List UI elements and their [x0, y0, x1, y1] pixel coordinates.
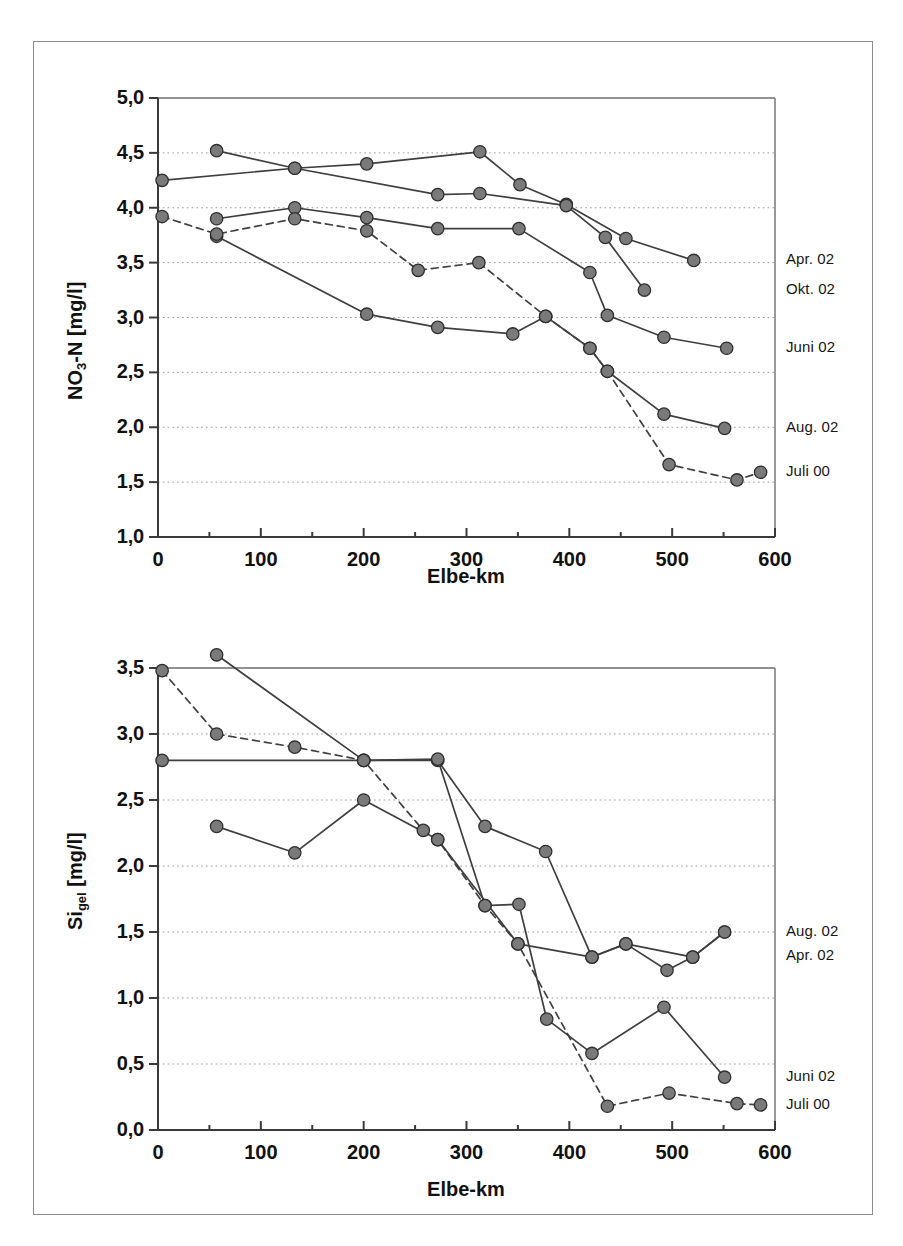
series-line-juni-02 [217, 800, 725, 957]
series-line-aug-02 [217, 655, 725, 970]
series-line-juli-00 [162, 217, 760, 480]
series-label-okt-02: Okt. 02 [786, 280, 835, 297]
data-point-marker [432, 753, 444, 765]
data-point-marker [560, 199, 572, 211]
y-tick-label: 1,0 [88, 525, 144, 548]
y-tick-label: 2,0 [88, 854, 144, 877]
data-point-marker [432, 188, 444, 200]
data-point-marker [361, 225, 373, 237]
series-line-juni-02 [217, 208, 727, 348]
y-tick-label: 0,0 [88, 1118, 144, 1141]
y-tick-label: 4,5 [88, 141, 144, 164]
y-tick-label: 2,0 [88, 415, 144, 438]
y-tick-label: 2,5 [88, 788, 144, 811]
series-line-juli-00 [162, 671, 760, 1107]
series-label-juni-02: Juni 02 [786, 1067, 835, 1084]
data-point-marker [638, 284, 650, 296]
data-point-marker [514, 179, 526, 191]
data-point-marker [601, 1100, 613, 1112]
x-tick-label: 300 [427, 1141, 507, 1164]
y-tick-label: 1,5 [88, 470, 144, 493]
data-point-marker [663, 458, 675, 470]
data-point-marker [507, 328, 519, 340]
y-tick-label: 3,0 [88, 306, 144, 329]
series-label-aug-02: Aug. 02 [786, 418, 838, 435]
data-point-marker [210, 649, 222, 661]
data-point-marker [289, 741, 301, 753]
data-point-marker [584, 342, 596, 354]
data-point-marker [474, 146, 486, 158]
data-point-marker [539, 845, 551, 857]
y-tick-label: 5,0 [88, 86, 144, 109]
data-point-marker [210, 820, 222, 832]
data-point-marker [541, 1013, 553, 1025]
x-tick-label: 100 [221, 1141, 301, 1164]
y-tick-label: 1,5 [88, 920, 144, 943]
data-point-marker [688, 254, 700, 266]
x-tick-label: 500 [632, 548, 712, 571]
series-label-juli-00: Juli 00 [786, 1095, 830, 1112]
series-label-juni-02: Juni 02 [786, 338, 835, 355]
data-point-marker [718, 422, 730, 434]
data-point-marker [289, 847, 301, 859]
x-tick-label: 0 [118, 548, 198, 571]
data-point-marker [599, 231, 611, 243]
data-point-marker [210, 228, 222, 240]
data-point-marker [601, 309, 613, 321]
y-tick-label: 0,5 [88, 1052, 144, 1075]
data-point-marker [210, 728, 222, 740]
x-tick-label: 100 [221, 548, 301, 571]
data-point-marker [620, 938, 632, 950]
data-point-marker [474, 187, 486, 199]
y-tick-label: 4,0 [88, 196, 144, 219]
x-tick-label: 600 [735, 1141, 815, 1164]
data-point-marker [432, 321, 444, 333]
series-label-juli-00: Juli 00 [786, 462, 830, 479]
figure-page: NO3-N [mg/l] Elbe-km 1,01,52,02,53,03,54… [0, 0, 903, 1246]
data-point-marker [731, 1097, 743, 1109]
y-tick-label: 3,0 [88, 722, 144, 745]
data-point-marker [479, 820, 491, 832]
y-tick-label: 3,5 [88, 656, 144, 679]
data-point-marker [658, 408, 670, 420]
data-point-marker [754, 1099, 766, 1111]
data-point-marker [479, 899, 491, 911]
x-tick-label: 600 [735, 548, 815, 571]
data-point-marker [361, 158, 373, 170]
x-tick-label: 500 [632, 1141, 712, 1164]
data-point-marker [210, 213, 222, 225]
data-point-marker [720, 342, 732, 354]
data-point-marker [512, 938, 524, 950]
data-point-marker [584, 266, 596, 278]
data-point-marker [156, 664, 168, 676]
data-point-marker [357, 794, 369, 806]
data-point-marker [601, 365, 613, 377]
series-line-apr-02 [162, 152, 694, 261]
y-tick-label: 2,5 [88, 360, 144, 383]
series-line-aug-02 [217, 236, 725, 428]
x-axis-title-sigel: Elbe-km [366, 1178, 566, 1201]
data-point-marker [156, 754, 168, 766]
data-point-marker [289, 213, 301, 225]
data-point-marker [156, 210, 168, 222]
chart-panel-sigel: Sigel [mg/l] Elbe-km 0,00,51,01,52,02,53… [0, 600, 903, 1220]
series-label-aug-02: Aug. 02 [786, 922, 838, 939]
data-point-marker [687, 951, 699, 963]
y-tick-label: 3,5 [88, 251, 144, 274]
series-label-apr-02: Apr. 02 [786, 946, 834, 963]
data-point-marker [661, 964, 673, 976]
data-point-marker [432, 833, 444, 845]
data-point-marker [586, 1047, 598, 1059]
x-tick-label: 400 [529, 548, 609, 571]
data-point-marker [731, 474, 743, 486]
data-point-marker [210, 144, 222, 156]
series-label-apr-02: Apr. 02 [786, 250, 834, 267]
data-point-marker [718, 1071, 730, 1083]
data-point-marker [412, 264, 424, 276]
x-tick-label: 200 [324, 1141, 404, 1164]
data-point-marker [432, 222, 444, 234]
data-point-marker [620, 232, 632, 244]
data-point-marker [156, 174, 168, 186]
data-point-marker [513, 898, 525, 910]
data-point-marker [417, 824, 429, 836]
